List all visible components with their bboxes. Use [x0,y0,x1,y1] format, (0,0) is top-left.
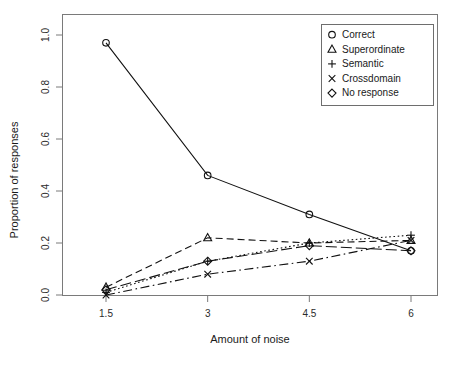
chart-legend[interactable]: CorrectSuperordinateSemanticCrossdomainN… [322,25,434,106]
legend-item-label: Crossdomain [342,73,401,84]
y-tick-label: 0.0 [40,288,51,302]
x-tick-label: 3 [205,308,211,319]
x-tick-label: 6 [408,308,414,319]
legend-item-label: Superordinate [342,44,405,55]
x-tick-label: 1.5 [99,308,113,319]
chart-figure: 0.00.20.40.60.81.0 1.534.56 Amount of no… [0,0,463,365]
y-tick-label: 0.2 [40,236,51,250]
y-tick-label: 0.4 [40,184,51,198]
y-axis-title: Proportion of responses [8,121,20,238]
x-tick-label: 4.5 [302,308,316,319]
y-tick-label: 0.6 [40,132,51,146]
x-axis-title: Amount of noise [210,333,290,345]
legend-item-label: No response [342,87,399,98]
y-tick-label: 1.0 [40,28,51,42]
line-chart: 0.00.20.40.60.81.0 1.534.56 Amount of no… [0,0,463,365]
legend-item-label: Semantic [342,58,384,69]
legend-item-label: Correct [342,29,375,40]
y-tick-label: 0.8 [40,80,51,94]
